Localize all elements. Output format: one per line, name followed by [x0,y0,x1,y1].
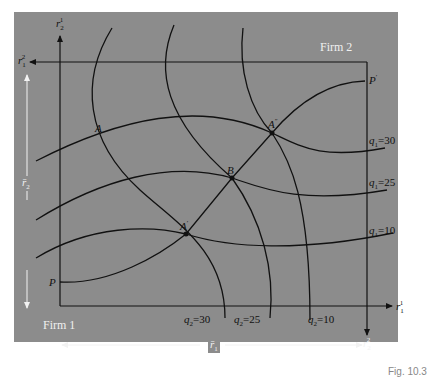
firm2-label: Firm 2 [320,40,352,55]
isoquant-q1-30 [36,116,385,161]
label-r2-firm1: r21 [56,16,63,32]
firm1-axes [60,36,392,306]
contract-curve [60,81,365,282]
label-r-bar-1: r̄1 [208,338,220,353]
isoquant-q1-25 [36,171,387,220]
firm2-axes [30,62,367,335]
label-point-p-prime: P′ [369,73,377,86]
label-r-bar-2: r̄2 [22,176,30,191]
label-q2-30: q2=30 [184,313,210,328]
isoquant-q1-10 [36,229,393,258]
point-a-double-prime [270,131,275,136]
label-point-a: A [95,122,102,134]
point-b [230,176,235,181]
figure-caption: Fig. 10.3 [388,366,427,377]
point-a-prime [184,232,189,237]
label-q1-10: q1=10 [369,224,395,239]
label-point-a-double-prime: A″ [268,117,278,130]
label-r2-firm2: r22 [363,336,370,352]
label-q1-25: q1=25 [369,176,395,191]
firm1-label: Firm 1 [43,318,75,333]
label-q2-10: q2=10 [308,313,334,328]
label-point-b: B [227,164,234,176]
label-point-a-prime: A′ [180,219,188,232]
label-q2-25: q2=25 [234,313,260,328]
label-q1-30: q1=30 [369,134,395,149]
firm1-isoquants [36,116,393,258]
label-r1-firm2: r12 [18,53,25,69]
label-point-p: P [49,276,56,288]
isoquant-q2-10 [242,28,310,320]
label-r1-firm1: r11 [396,299,403,315]
